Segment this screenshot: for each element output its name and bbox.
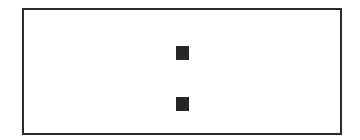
diagram-frame <box>22 8 342 135</box>
square-mark-bottom <box>176 97 189 111</box>
square-mark-top <box>176 46 189 60</box>
